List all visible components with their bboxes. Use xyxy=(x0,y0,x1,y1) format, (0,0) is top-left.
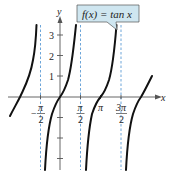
function-label: f(x) = tan x xyxy=(82,8,132,21)
svg-text:π: π xyxy=(38,102,44,113)
x-tick-pi-half: π 2 xyxy=(77,102,85,125)
svg-text:π: π xyxy=(78,102,84,113)
svg-text:−: − xyxy=(31,108,37,119)
svg-text:3π: 3π xyxy=(115,102,127,113)
y-tick-label-2: 2 xyxy=(49,51,54,62)
svg-text:2: 2 xyxy=(39,114,44,125)
x-tick-three-pi-half: 3π 2 xyxy=(115,102,127,125)
y-axis-arrow-icon xyxy=(58,16,63,23)
y-tick-label-1: 1 xyxy=(49,71,54,82)
x-tick-pi: π xyxy=(98,102,104,113)
y-axis-label: y xyxy=(56,6,62,17)
branch-4 xyxy=(126,76,152,170)
axes xyxy=(8,19,158,170)
function-label-callout: f(x) = tan x xyxy=(77,5,139,30)
tan-curve xyxy=(10,25,152,170)
branch-1 xyxy=(10,25,37,116)
branch-3 xyxy=(86,25,117,170)
svg-text:2: 2 xyxy=(119,114,124,125)
branch-2 xyxy=(45,25,76,170)
x-tick-neg-pi-half: − π 2 xyxy=(31,102,45,125)
x-axis-label: x xyxy=(160,92,166,103)
y-tick-label-3: 3 xyxy=(49,30,54,41)
svg-text:2: 2 xyxy=(78,114,83,125)
tan-chart: 1 2 3 y x − π 2 π 2 π 3π 2 f(x) = tan x xyxy=(0,0,174,174)
